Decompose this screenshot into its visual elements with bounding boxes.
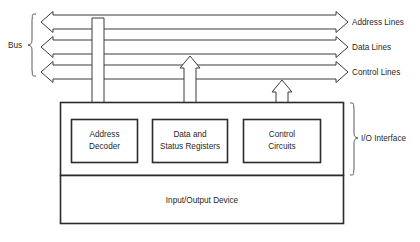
data-lines-arrow bbox=[41, 37, 348, 58]
data-lines-label: Data Lines bbox=[352, 43, 391, 52]
control-circuits-label-line1: Control bbox=[269, 130, 296, 139]
bus-brace bbox=[28, 14, 36, 76]
io-interface-brace bbox=[350, 103, 358, 175]
control-circuits-label-line2: Circuits bbox=[268, 142, 295, 151]
data-status-registers-label-line2: Status Registers bbox=[160, 142, 220, 151]
address-decoder-label-line2: Decoder bbox=[89, 142, 120, 151]
control-lines-label: Control Lines bbox=[352, 68, 400, 77]
io-interface-diagram: Bus Address Lines Data Lines Control Lin… bbox=[0, 0, 420, 242]
diagram-canvas: Bus Address Lines Data Lines Control Lin… bbox=[0, 0, 420, 242]
io-interface-label: I/O Interface bbox=[361, 134, 406, 143]
data-status-registers-label-line1: Data and bbox=[173, 130, 207, 139]
address-lines-arrow bbox=[41, 12, 348, 33]
address-lines-label: Address Lines bbox=[352, 18, 404, 27]
input-output-device-label: Input/Output Device bbox=[166, 196, 239, 205]
address-decoder-label-line1: Address bbox=[89, 130, 119, 139]
bus-label: Bus bbox=[8, 41, 22, 50]
